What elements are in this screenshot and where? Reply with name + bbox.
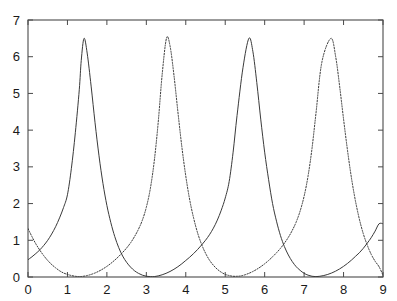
y-tick-label: 3 xyxy=(13,159,20,174)
x-tick-label: 5 xyxy=(222,282,229,297)
x-tick-label: 1 xyxy=(64,282,71,297)
x-tick-label: 8 xyxy=(340,282,347,297)
x-tick-label: 6 xyxy=(261,282,268,297)
y-tick-label: 0 xyxy=(13,270,20,285)
y-tick-label: 2 xyxy=(13,196,20,211)
y-tick-label: 6 xyxy=(13,49,20,64)
x-tick-label: 0 xyxy=(24,282,31,297)
y-tick-label: 1 xyxy=(13,233,20,248)
y-tick-label: 7 xyxy=(13,13,20,28)
x-tick-label: 4 xyxy=(182,282,189,297)
y-tick-label: 4 xyxy=(13,123,20,138)
x-tick-label: 9 xyxy=(379,282,386,297)
chart-figure: 0123456789 01234567 xyxy=(0,0,397,301)
y-tick-label: 5 xyxy=(13,86,20,101)
x-tick-label: 3 xyxy=(143,282,150,297)
x-tick-label: 7 xyxy=(300,282,307,297)
plot-canvas: 0123456789 01234567 xyxy=(0,0,397,301)
figure-background xyxy=(0,0,397,301)
x-tick-label: 2 xyxy=(103,282,110,297)
